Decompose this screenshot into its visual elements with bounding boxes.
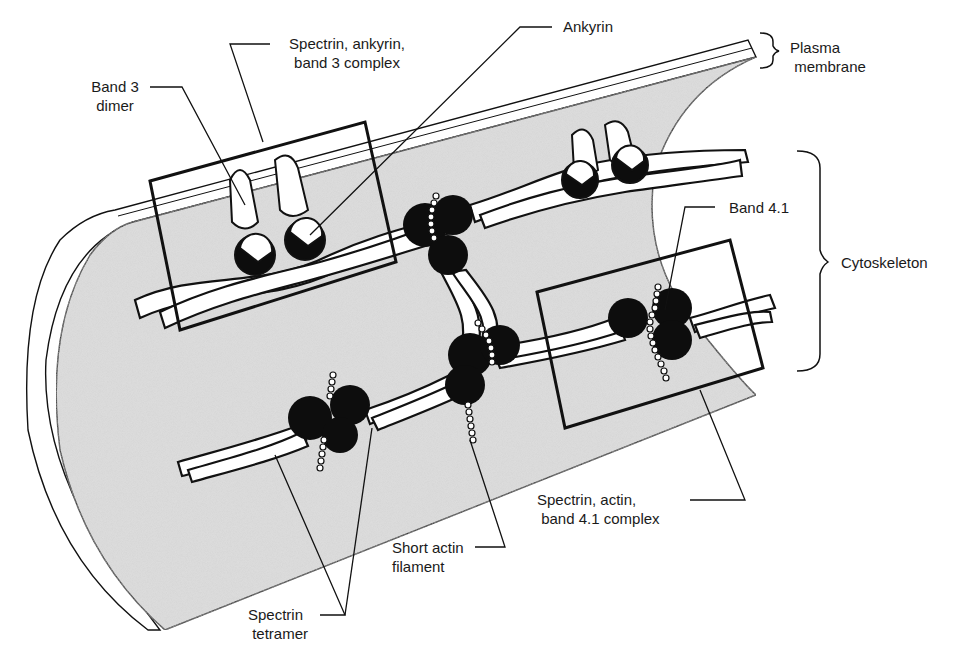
label-band41: Band 4.1 [729, 198, 789, 217]
label-spectrin-ankyrin-band3-complex: Spectrin, ankyrin, band 3 complex [272, 34, 422, 72]
label-ankyrin: Ankyrin [563, 17, 613, 36]
label-cytoskeleton: Cytoskeleton [841, 253, 928, 272]
label-short-actin-filament: Short actin filament [392, 538, 464, 576]
cytoskeleton-bracket [797, 151, 828, 371]
label-plasma-membrane: Plasma membrane [790, 38, 866, 76]
label-band3-dimer: Band 3 dimer [80, 77, 150, 115]
label-spectrin-actin-band41-complex: Spectrin, actin, band 4.1 complex [537, 490, 660, 528]
leader-spectrin-ankyrin-band3 [230, 44, 270, 142]
plasma-membrane-bracket [760, 33, 779, 68]
label-spectrin-tetramer: Spectrin tetramer [248, 605, 308, 643]
